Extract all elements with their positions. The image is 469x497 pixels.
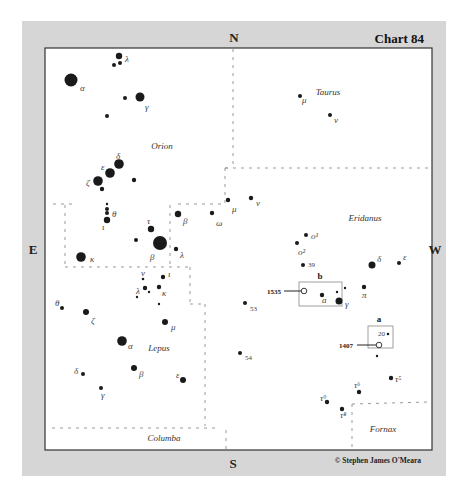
star bbox=[65, 74, 78, 87]
star-label: γ bbox=[101, 390, 105, 400]
compass-south: S bbox=[229, 456, 236, 471]
star bbox=[143, 286, 147, 290]
star bbox=[105, 168, 115, 178]
object-label: 1407 bbox=[339, 342, 354, 350]
star bbox=[161, 275, 165, 279]
star bbox=[389, 376, 393, 380]
star-label: β bbox=[138, 369, 144, 379]
star-label: μ bbox=[231, 204, 237, 214]
star bbox=[301, 263, 305, 267]
star-label: γ bbox=[145, 102, 149, 112]
star bbox=[123, 96, 127, 100]
star bbox=[376, 355, 378, 357]
deep-sky-object-marker bbox=[376, 342, 382, 348]
star-label: ν bbox=[334, 115, 338, 125]
star-label: λ bbox=[124, 54, 129, 64]
star-label: θ bbox=[112, 209, 117, 219]
star-label: 20 bbox=[378, 330, 386, 338]
constellation-label: Eridanus bbox=[347, 213, 382, 223]
star bbox=[210, 211, 214, 215]
star bbox=[132, 178, 136, 182]
star-label: 54 bbox=[245, 354, 253, 362]
constellation-label: Taurus bbox=[316, 87, 341, 97]
star bbox=[81, 372, 85, 376]
star bbox=[105, 114, 109, 118]
star-label: μ bbox=[301, 95, 307, 105]
star bbox=[93, 176, 103, 186]
star bbox=[83, 309, 89, 315]
star bbox=[142, 278, 145, 281]
star-label: γ bbox=[345, 299, 349, 309]
star-label: o¹ bbox=[311, 231, 319, 241]
star-label: ε bbox=[403, 252, 407, 262]
star bbox=[238, 351, 242, 355]
star bbox=[112, 63, 116, 67]
compass-west: W bbox=[429, 242, 442, 257]
star bbox=[134, 238, 138, 242]
star bbox=[105, 207, 109, 211]
star-label: τ⁸ bbox=[340, 410, 346, 420]
constellation-label: Orion bbox=[151, 141, 173, 151]
star bbox=[118, 61, 122, 65]
star bbox=[387, 333, 390, 336]
star bbox=[243, 301, 247, 305]
star-label: α bbox=[80, 83, 85, 93]
star-label: ε bbox=[176, 370, 180, 380]
star bbox=[131, 365, 137, 371]
star bbox=[153, 236, 167, 250]
chart-title: Chart 84 bbox=[375, 31, 425, 46]
star bbox=[116, 53, 122, 59]
star-label: 39 bbox=[308, 261, 316, 269]
star bbox=[136, 93, 145, 102]
star bbox=[100, 187, 104, 191]
star-label: o² bbox=[298, 247, 306, 257]
star-label: π bbox=[362, 290, 367, 300]
star bbox=[336, 298, 343, 305]
star-label: a bbox=[322, 295, 327, 305]
star-label: ω bbox=[216, 218, 222, 228]
copyright-notice: © Stephen James O'Meara bbox=[335, 456, 421, 465]
star bbox=[344, 287, 346, 289]
deep-sky-object-marker bbox=[301, 288, 307, 294]
star bbox=[336, 291, 338, 293]
star bbox=[175, 211, 181, 217]
star bbox=[148, 226, 154, 232]
object-label: 1535 bbox=[267, 288, 282, 296]
star-label: β bbox=[182, 216, 188, 226]
star bbox=[304, 233, 308, 237]
star bbox=[397, 261, 401, 265]
star-chart: ba 15351407 λαγδεζθιβτβλμνωκνιλκθζμαβεδγ… bbox=[0, 0, 469, 497]
star bbox=[180, 377, 186, 383]
star-label: 53 bbox=[250, 305, 258, 313]
star bbox=[162, 319, 168, 325]
star bbox=[249, 196, 253, 200]
star bbox=[226, 198, 230, 202]
star-label: α bbox=[128, 341, 133, 351]
star bbox=[369, 262, 376, 269]
star bbox=[104, 217, 110, 223]
star bbox=[157, 285, 161, 289]
star-label: κ bbox=[162, 288, 167, 298]
star-label: ε bbox=[101, 162, 105, 172]
star bbox=[328, 113, 332, 117]
constellation-label: Columba bbox=[147, 433, 181, 443]
star bbox=[106, 203, 108, 205]
star bbox=[295, 241, 299, 245]
star bbox=[158, 303, 160, 305]
star-label: τ⁶ bbox=[354, 380, 360, 390]
star bbox=[362, 285, 366, 289]
star-label: θ bbox=[55, 298, 60, 308]
star bbox=[357, 390, 361, 394]
star-label: β bbox=[149, 252, 155, 262]
star bbox=[136, 296, 138, 298]
star-label: λ bbox=[179, 250, 184, 260]
star bbox=[60, 306, 64, 310]
constellation-label: Lepus bbox=[147, 343, 170, 353]
inset-label: b bbox=[317, 271, 322, 281]
star bbox=[174, 247, 178, 251]
star-label: λ bbox=[135, 286, 140, 296]
star bbox=[105, 211, 109, 215]
star-label: κ bbox=[90, 254, 95, 264]
star-label: ν bbox=[256, 198, 260, 208]
star bbox=[117, 336, 127, 346]
